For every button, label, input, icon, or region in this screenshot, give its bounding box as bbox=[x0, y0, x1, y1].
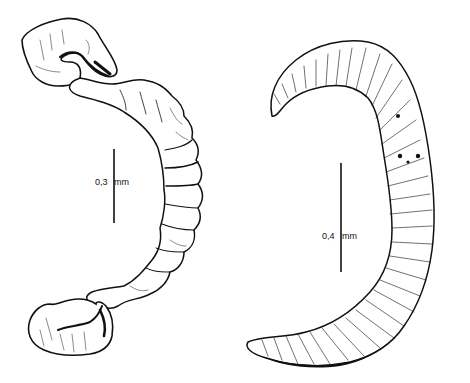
scale-label-right: 0,4 mm bbox=[322, 231, 357, 241]
scale-unit-right: mm bbox=[342, 231, 357, 241]
scale-value-right: 0,4 bbox=[322, 231, 335, 241]
scale-label-left: 0,3 mm bbox=[95, 177, 129, 187]
scale-unit-left: mm bbox=[114, 177, 129, 187]
scale-value-left: 0,3 bbox=[95, 177, 108, 187]
illustration-canvas bbox=[0, 0, 470, 383]
left-specimen-body bbox=[69, 78, 202, 308]
